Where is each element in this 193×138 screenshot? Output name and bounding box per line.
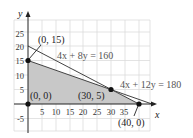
svg-text:20: 20: [16, 42, 25, 52]
label-vertex-0-15: (0, 15): [38, 34, 65, 46]
y-axis-label: y: [17, 8, 23, 19]
x-axis-arrow-icon: [151, 102, 157, 107]
svg-text:25: 25: [93, 107, 102, 117]
label-eq-4x-12y-180: 4x + 12y = 180: [120, 79, 181, 90]
svg-text:20: 20: [79, 107, 88, 117]
svg-text:-5: -5: [17, 114, 24, 124]
y-tick-labels: 25 20 15 10 5 -5: [16, 29, 25, 124]
vertex-30-5: [108, 87, 113, 92]
svg-text:35: 35: [120, 107, 129, 117]
y-axis-arrow-icon: [26, 11, 31, 17]
svg-text:30: 30: [107, 107, 116, 117]
label-vertex-40-0: (40, 0): [118, 117, 145, 129]
svg-text:5: 5: [20, 85, 24, 95]
svg-text:10: 10: [16, 71, 25, 81]
svg-text:15: 15: [16, 56, 25, 66]
svg-text:5: 5: [40, 107, 44, 117]
label-eq-4x-8y-160: 4x + 8y = 160: [57, 50, 113, 61]
x-axis-label: x: [154, 109, 160, 120]
vertex-40-0: [136, 101, 141, 106]
svg-text:25: 25: [16, 29, 25, 39]
svg-text:10: 10: [52, 107, 61, 117]
vertex-0-0: [25, 101, 30, 106]
label-vertex-30-5: (30, 5): [78, 90, 105, 102]
feasible-region-graph: x y 5 10 15 20 25 30 35 25 20 15 10 5 -5…: [0, 0, 193, 138]
leader-40-0: [134, 106, 138, 116]
svg-text:15: 15: [66, 107, 75, 117]
x-tick-labels: 5 10 15 20 25 30 35: [40, 107, 128, 117]
label-vertex-0-0: (0, 0): [30, 90, 52, 102]
